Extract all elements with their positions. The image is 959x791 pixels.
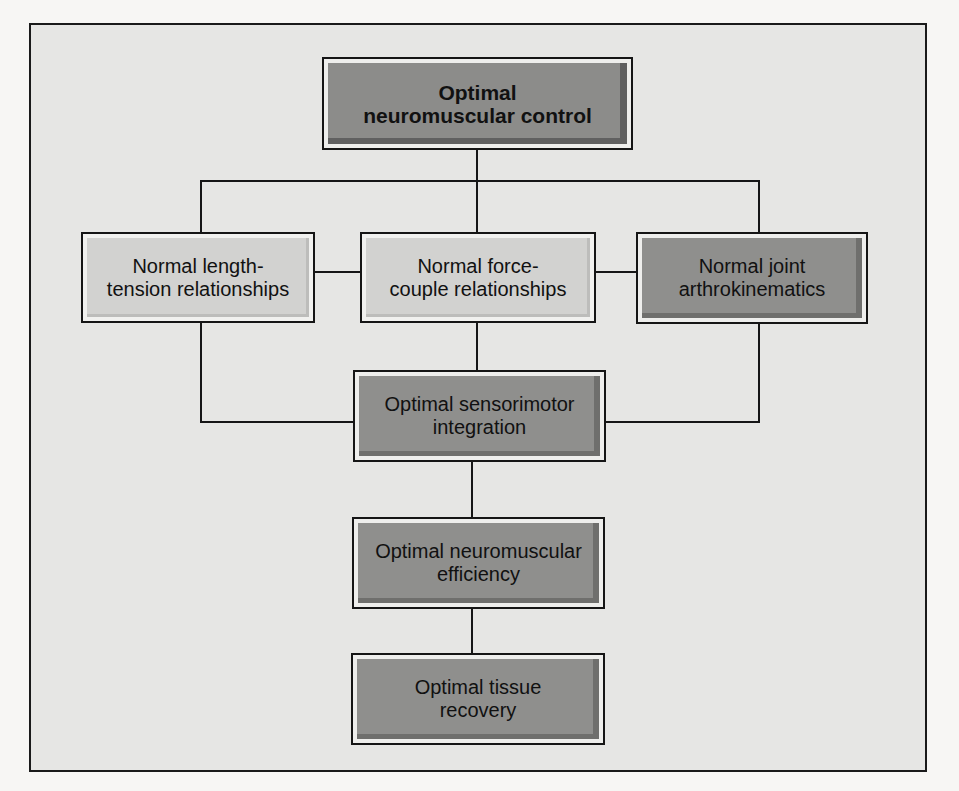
connector-top-to-bus (476, 150, 478, 182)
node-label: Optimal neuromuscular efficiency (375, 540, 582, 586)
connector-bus-to-left (200, 180, 202, 232)
node-optimal-tissue-recovery: Optimal tissue recovery (351, 653, 605, 745)
node-normal-joint-arthrokinematics: Normal joint arthrokinematics (636, 232, 868, 324)
connector-bus-to-middle (476, 180, 478, 232)
connector-middle-to-right (595, 271, 636, 273)
node-label: Normal length- tension relationships (107, 255, 289, 301)
connector-right-to-sensorimotor (604, 421, 760, 423)
connector-bus-to-right (758, 180, 760, 232)
node-normal-force-couple: Normal force- couple relationships (360, 232, 596, 323)
diagram-canvas: Optimal neuromuscular control Normal len… (0, 0, 959, 791)
node-optimal-neuromuscular-control: Optimal neuromuscular control (322, 57, 633, 150)
connector-left-down (200, 322, 202, 423)
node-label: Optimal tissue recovery (415, 676, 542, 722)
connector-left-to-sensorimotor (200, 421, 354, 423)
connector-left-to-middle (314, 271, 360, 273)
connector-sensorimotor-to-efficiency (471, 461, 473, 517)
connector-horizontal-bus (200, 180, 760, 182)
connector-middle-to-sensorimotor (476, 322, 478, 370)
node-label: Optimal neuromuscular control (363, 81, 592, 127)
node-optimal-sensorimotor-integration: Optimal sensorimotor integration (353, 370, 606, 462)
connector-right-down (758, 323, 760, 423)
node-label: Normal joint arthrokinematics (679, 255, 826, 301)
node-label: Normal force- couple relationships (390, 255, 567, 301)
node-optimal-neuromuscular-efficiency: Optimal neuromuscular efficiency (352, 517, 605, 609)
connector-efficiency-to-recovery (471, 608, 473, 654)
node-normal-length-tension: Normal length- tension relationships (81, 232, 315, 323)
node-label: Optimal sensorimotor integration (384, 393, 574, 439)
